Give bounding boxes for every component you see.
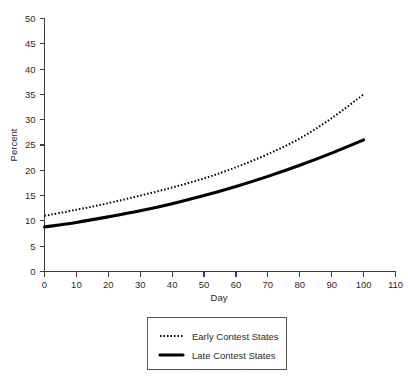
y-tick-label: 20	[25, 165, 36, 176]
legend-label-late-contest-states: Late Contest States	[192, 350, 276, 361]
y-tick-label: 15	[25, 190, 36, 201]
y-tick-label: 35	[25, 89, 36, 100]
x-tick-label: 100	[356, 279, 372, 290]
y-tick-label: 5	[30, 241, 35, 252]
axes-group: 05101520253035404550 0102030405060708090…	[25, 13, 403, 290]
legend-box	[148, 318, 287, 370]
x-tick-label: 90	[326, 279, 337, 290]
series-line-early-contest-states	[45, 94, 364, 215]
x-tick-label: 10	[71, 279, 82, 290]
chart-legend: Early Contest States Late Contest States	[148, 318, 287, 370]
x-tick-label: 70	[263, 279, 274, 290]
x-tick-label: 50	[199, 279, 210, 290]
y-axis-title: Percent	[8, 128, 19, 161]
y-tick-label: 45	[25, 38, 36, 49]
series-group	[45, 94, 364, 227]
y-tick-label: 0	[30, 266, 35, 277]
y-tick-label: 50	[25, 13, 36, 24]
y-axis-ticks	[40, 19, 45, 272]
chart-figure: 05101520253035404550 0102030405060708090…	[0, 0, 408, 381]
x-axis-ticks	[45, 272, 396, 277]
y-tick-label: 30	[25, 114, 36, 125]
y-tick-label: 10	[25, 215, 36, 226]
x-tick-label: 110	[388, 279, 403, 290]
x-tick-label: 60	[231, 279, 242, 290]
x-tick-label: 80	[294, 279, 305, 290]
legend-item-late-contest-states: Late Contest States	[160, 350, 276, 361]
x-axis-title: Day	[211, 292, 228, 303]
x-tick-label: 20	[103, 279, 114, 290]
y-axis-tick-labels: 05101520253035404550	[25, 13, 36, 277]
legend-item-early-contest-states: Early Contest States	[160, 331, 279, 342]
y-tick-label: 25	[25, 139, 36, 150]
x-axis-tick-labels: 0102030405060708090100110	[42, 279, 403, 290]
x-tick-label: 0	[42, 279, 47, 290]
x-tick-label: 40	[167, 279, 178, 290]
series-line-late-contest-states	[45, 140, 364, 227]
line-chart-svg: 05101520253035404550 0102030405060708090…	[0, 0, 408, 381]
y-tick-label: 40	[25, 64, 36, 75]
legend-label-early-contest-states: Early Contest States	[192, 331, 279, 342]
x-tick-label: 30	[135, 279, 146, 290]
